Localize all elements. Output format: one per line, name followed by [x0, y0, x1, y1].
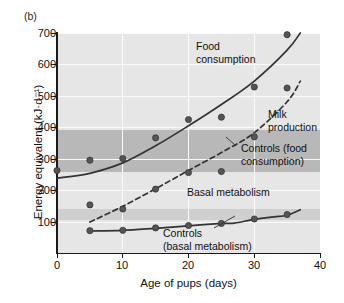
data-point [185, 117, 191, 123]
data-point [284, 85, 290, 91]
data-point [218, 114, 224, 120]
data-point [185, 170, 191, 176]
data-point [251, 134, 257, 140]
data-point [251, 216, 257, 222]
data-point [87, 157, 93, 163]
annotation-food-consumption: Food consumption [196, 40, 256, 65]
annotation-controls-basal: Controls (basal metabolism) [163, 227, 252, 252]
data-point [54, 167, 60, 173]
data-point [120, 206, 126, 212]
data-point [120, 227, 126, 233]
data-point [153, 186, 159, 192]
annotation-milk-production: Milk production [268, 108, 317, 133]
data-point [153, 225, 159, 231]
data-point [87, 202, 93, 208]
data-point [284, 32, 290, 38]
energy-equivalent-chart: (b) 700 600 500 400 300 200 100 0 10 20 … [0, 0, 344, 303]
data-point [251, 84, 257, 90]
data-point [284, 211, 290, 217]
data-point [153, 135, 159, 141]
leader-line-controls-food [226, 137, 236, 146]
data-point [120, 155, 126, 161]
annotation-basal-metabolism: Basal metabolism [187, 186, 270, 199]
data-point [87, 228, 93, 234]
annotation-controls-food: Controls (food consumption) [241, 142, 307, 167]
data-point [218, 168, 224, 174]
